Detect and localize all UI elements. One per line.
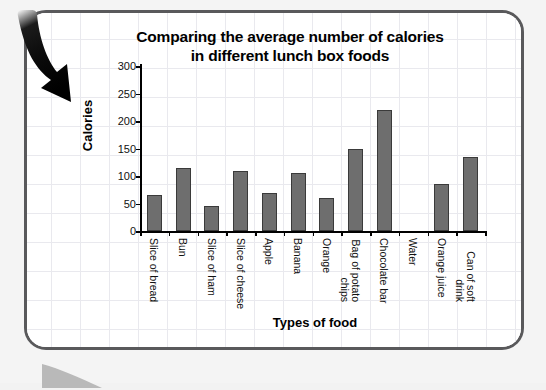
curved-arrow-icon <box>5 8 110 113</box>
partial-arrow-icon-bottom <box>40 362 110 390</box>
